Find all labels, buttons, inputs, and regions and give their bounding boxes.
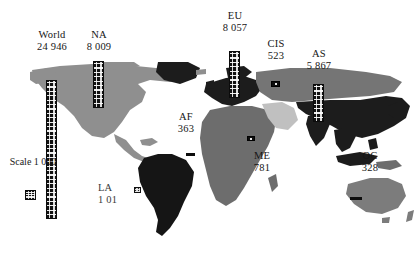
region-code-eu: EU (208, 10, 262, 22)
region-code-la: LA (98, 182, 138, 194)
bar-eu (229, 51, 240, 98)
scale-swatch (25, 190, 36, 200)
bar-world (46, 80, 57, 219)
scale-legend: Scale 1 000 (8, 156, 58, 169)
region-label-na: NA 8 009 (72, 29, 126, 54)
marker-af (186, 153, 195, 156)
region-value-oc: 328 (350, 162, 390, 174)
region-label-la: LA 1 01 (98, 182, 138, 207)
marker-cis (271, 81, 280, 87)
region-label-af: AF 363 (166, 111, 206, 136)
landmass-iceland (196, 69, 206, 75)
region-code-af: AF (166, 111, 206, 123)
bar-na (93, 61, 104, 108)
region-value-as: 5 867 (296, 60, 342, 72)
region-code-na: NA (72, 29, 126, 41)
scale-value: 1 000 (34, 156, 57, 167)
region-label-as: AS 5 867 (296, 48, 342, 73)
region-value-cis: 523 (254, 50, 298, 62)
region-value-la: 1 01 (98, 194, 138, 206)
region-label-eu: EU 8 057 (208, 10, 262, 35)
region-value-me: 781 (242, 162, 282, 174)
region-code-me: ME (242, 150, 282, 162)
region-value-na: 8 009 (72, 41, 126, 53)
marker-oc (350, 197, 362, 200)
region-value-eu: 8 057 (208, 22, 262, 34)
bar-as (313, 84, 324, 122)
region-code-oc: OC (350, 150, 390, 162)
region-label-cis: CIS 523 (254, 38, 298, 63)
marker-me (247, 136, 255, 141)
world-map-chart: World 24 946 NA 8 009 EU 8 057 CIS 523 A… (0, 0, 414, 254)
scale-title: Scale (10, 156, 32, 167)
region-code-cis: CIS (254, 38, 298, 50)
region-value-af: 363 (166, 123, 206, 135)
region-label-oc: OC 328 (350, 150, 390, 175)
region-code-as: AS (296, 48, 342, 60)
landmass-tasmania (382, 217, 390, 223)
region-label-me: ME 781 (242, 150, 282, 175)
